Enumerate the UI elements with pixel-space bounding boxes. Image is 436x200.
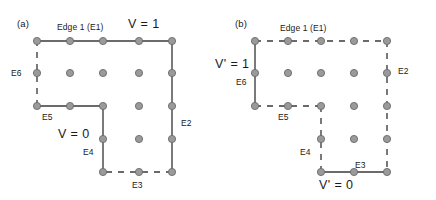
grid-node <box>383 69 390 76</box>
grid-node <box>317 102 324 109</box>
grid-node <box>251 69 258 76</box>
edge-label-e4: E4 <box>300 147 311 157</box>
grid-node <box>135 37 142 44</box>
figure-container: (a) <box>0 0 436 200</box>
edge-label-e3: E3 <box>355 160 366 170</box>
grid-node <box>251 37 258 44</box>
grid-node <box>284 69 291 76</box>
grid-node <box>66 69 73 76</box>
edge-label-e5: E5 <box>278 112 289 122</box>
grid-node <box>168 102 175 109</box>
grid-node <box>317 135 324 142</box>
grid-node <box>350 102 357 109</box>
grid-node <box>33 102 40 109</box>
value-label-v-left: V' = 1 <box>215 57 249 71</box>
grid-node <box>99 37 106 44</box>
grid-node <box>99 69 106 76</box>
edge-label-e4: E4 <box>83 147 94 157</box>
grid-node <box>168 168 175 175</box>
value-label-v-bottom: V = 0 <box>58 127 90 141</box>
grid-node <box>135 69 142 76</box>
edge-label-e1: Edge 1 (E1) <box>280 23 326 33</box>
grid-node <box>135 135 142 142</box>
panel-a: (a) <box>0 0 218 200</box>
grid-node <box>383 37 390 44</box>
grid-node <box>350 37 357 44</box>
grid-node <box>99 102 106 109</box>
edge-label-e2: E2 <box>398 66 409 76</box>
panel-b-graphics <box>218 0 436 200</box>
grid-node <box>317 69 324 76</box>
grid-node <box>383 135 390 142</box>
grid-node <box>317 37 324 44</box>
grid-node <box>383 168 390 175</box>
grid-node <box>284 102 291 109</box>
grid-node <box>33 69 40 76</box>
grid-node <box>33 37 40 44</box>
grid-node <box>135 102 142 109</box>
grid-node <box>350 135 357 142</box>
grid-node <box>168 135 175 142</box>
grid-node <box>284 37 291 44</box>
grid-node <box>168 69 175 76</box>
grid-node <box>251 102 258 109</box>
edge-label-e5: E5 <box>42 112 53 122</box>
grid-node <box>350 69 357 76</box>
edge-label-e1: Edge 1 (E1) <box>57 22 103 32</box>
grid-node <box>99 168 106 175</box>
edge-label-e6: E6 <box>236 77 247 87</box>
value-label-v-bottom: V' = 0 <box>319 178 353 192</box>
edge-label-e6: E6 <box>11 68 22 78</box>
grid-node <box>66 102 73 109</box>
edge-label-e3: E3 <box>132 180 143 190</box>
grid-node <box>168 37 175 44</box>
panel-a-graphics <box>0 0 218 200</box>
grid-node <box>383 102 390 109</box>
grid-node <box>135 168 142 175</box>
edge-label-e2: E2 <box>181 118 192 128</box>
grid-node <box>317 168 324 175</box>
panel-b: (b) <box>218 0 436 200</box>
value-label-v-top: V = 1 <box>128 17 160 31</box>
grid-node <box>66 37 73 44</box>
grid-node <box>99 135 106 142</box>
